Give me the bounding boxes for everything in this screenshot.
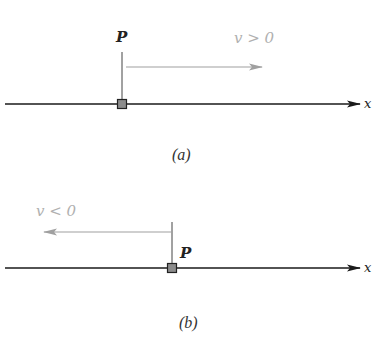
point-label-b: P [179,244,192,262]
velocity-label-b: v < 0 [36,202,77,220]
particle-b [168,264,177,273]
x-axis-label-b: x [364,260,372,275]
panel-a: x P v > 0 (a) [5,28,372,164]
velocity-direction-diagram: x P v > 0 (a) x P v < 0 (b) [0,0,387,339]
panel-b: x P v < 0 (b) [5,202,372,332]
x-axis-label-a: x [364,96,372,111]
point-label-a: P [115,28,128,46]
caption-a: (a) [172,146,191,164]
particle-a [118,100,127,109]
velocity-label-a: v > 0 [234,29,275,47]
caption-b: (b) [179,314,198,332]
